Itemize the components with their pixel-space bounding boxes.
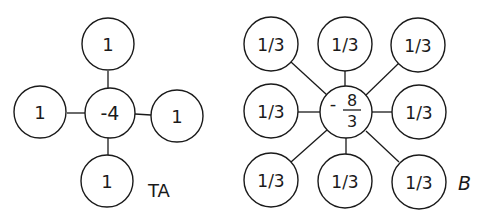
node-value: 1 [171,106,182,127]
node-value: 1/3 [257,102,284,122]
diagram-label: TA [147,180,171,201]
node-value: 1/3 [405,173,432,193]
edge [291,130,327,162]
center-numerator: 8 [347,91,357,110]
center-sign: - [330,93,337,114]
node-value: 1/3 [257,35,284,55]
diagram-ta: 1 1 -4 1 1 TA [14,18,203,207]
node-value: 1/3 [257,171,284,191]
center-value: -4 [101,102,120,124]
node-value: 1/3 [331,172,358,192]
edge [366,63,399,95]
node-value: 1/3 [404,36,431,56]
diagram-b: 1/3 1/3 1/3 1/3 1/3 1/3 1/3 1/3 - 8 3 B [244,17,471,209]
center-denominator: 3 [347,112,357,131]
node-value: 1/3 [331,35,358,55]
node-value: 1 [102,34,113,55]
diagram-label: B [458,172,471,194]
stencil-diagrams: 1 1 -4 1 1 TA 1/3 1/3 1/3 1/3 1/3 1/3 1/… [0,0,484,220]
node-value: 1 [34,102,45,123]
edge [291,62,327,95]
edge [366,131,399,162]
edge [135,114,151,115]
node-value: 1/3 [405,103,432,123]
node-value: 1 [101,171,112,192]
